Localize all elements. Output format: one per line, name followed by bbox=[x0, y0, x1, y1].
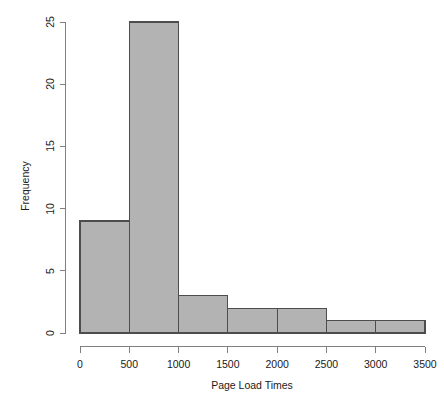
plot-area bbox=[0, 0, 444, 416]
x-axis-title: Page Load Times bbox=[211, 380, 293, 391]
chart-canvas bbox=[0, 0, 444, 416]
x-tick-label: 1500 bbox=[216, 359, 239, 370]
y-tick-label: 0 bbox=[45, 330, 56, 336]
x-tick-label: 500 bbox=[121, 359, 139, 370]
y-tick-label: 25 bbox=[45, 16, 56, 28]
y-tick-label: 15 bbox=[45, 141, 56, 153]
bars-group bbox=[80, 22, 425, 333]
y-axis-line-and-ticks bbox=[60, 22, 66, 333]
histogram-bar bbox=[129, 22, 178, 333]
histogram-bar bbox=[228, 308, 277, 333]
x-tick-label: 2000 bbox=[265, 359, 288, 370]
histogram-bar bbox=[326, 321, 375, 333]
x-tick-label: 2500 bbox=[315, 359, 338, 370]
x-axis-line-and-ticks bbox=[80, 347, 425, 353]
y-tick-label: 10 bbox=[45, 203, 56, 215]
y-axis-title: Frequency bbox=[20, 161, 31, 211]
histogram-bar bbox=[376, 321, 425, 333]
histogram-bar bbox=[277, 308, 326, 333]
x-tick-label: 0 bbox=[77, 359, 83, 370]
y-tick-label: 5 bbox=[45, 268, 56, 274]
histogram-bar bbox=[179, 296, 228, 333]
x-tick-label: 1000 bbox=[167, 359, 190, 370]
histogram-bar bbox=[80, 221, 129, 333]
y-tick-label: 20 bbox=[45, 78, 56, 90]
x-tick-label: 3000 bbox=[364, 359, 387, 370]
histogram-figure: 0500100015002000250030003500 0510152025 … bbox=[0, 0, 444, 416]
x-tick-label: 3500 bbox=[413, 359, 436, 370]
